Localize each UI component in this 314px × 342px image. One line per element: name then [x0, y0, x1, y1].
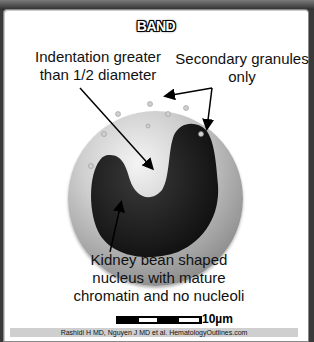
granule-arrow-2: [207, 88, 212, 128]
indentation-arrow: [80, 88, 152, 168]
nucleus-shape: [91, 124, 218, 257]
granule-arrow-1: [166, 88, 212, 96]
